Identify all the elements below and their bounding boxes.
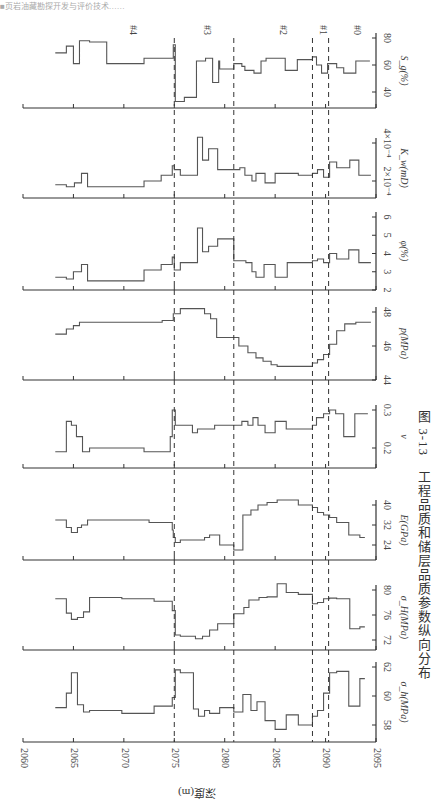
value-tick-label: 2 [382,288,393,293]
depth-tick-label: 2075 [170,748,181,768]
series-step-line [55,309,371,367]
value-tick-label: 0.2 [382,442,393,455]
panel-E: 243240E(GPa) [23,500,410,560]
depth-profile-chart: 406080S_g(%)2×10⁻⁴4×10⁻⁴K_w(mD)23456φ(%)… [0,0,447,812]
panel-K_w: 2×10⁻⁴4×10⁻⁴K_w(mD) [23,128,410,198]
panel-axis-label: σ_h(MPa) [398,681,410,723]
series-step-line [55,137,371,186]
depth-axis-label: 深度(m) [178,786,216,802]
value-tick-label: 4 [382,251,393,256]
series-step-line [55,500,365,550]
value-tick-label: 44 [382,375,393,385]
panel-axis-label: φ(%) [398,241,410,262]
series-step-line [55,41,370,102]
value-tick-label: 62 [382,662,393,672]
panel-axis-label: σ_H(MPa) [398,596,410,640]
value-tick-label: 5 [382,233,393,238]
panel-axis-label: ν [399,434,410,439]
panel-axis-label: K_w(mD) [398,147,410,188]
value-tick-label: 48 [382,307,393,317]
zone-label: #3 [202,25,213,35]
value-tick-label: 76 [382,610,393,620]
depth-tick-label: 2090 [321,748,332,768]
value-tick-label: 24 [382,540,393,550]
figure-caption: 图 3-13 工程品质和储层品质参数纵向分布 [414,410,433,680]
panel-sigma_H: 727680σ_H(MPa) [23,584,410,650]
panel-axis-label: p(MPa) [398,327,410,360]
panel-nu: 0.20.3ν [23,404,410,468]
panel-sigma_h: 586062σ_h(MPa) [23,662,410,742]
value-tick-label: 58 [382,720,393,730]
value-tick-label: 60 [382,691,393,701]
value-tick-label: 40 [382,87,393,97]
value-tick-label: 32 [382,520,393,530]
series-step-line [55,670,365,729]
depth-tick-label: 2080 [220,748,231,768]
value-tick-label: 0.3 [382,404,393,417]
series-step-line [55,228,371,281]
series-step-line [55,584,365,639]
value-tick-label: 46 [382,341,393,351]
panel-p: 444648p(MPa) [23,307,410,385]
value-tick-label: 3 [382,269,393,274]
value-tick-label: 60 [382,60,393,70]
value-tick-label: 80 [382,33,393,43]
depth-tick-label: 2060 [19,748,30,768]
depth-tick-label: 2085 [271,748,282,768]
panel-axis-label: E(GPa) [398,513,410,546]
depth-tick-label: 2065 [69,748,80,768]
panel-S_g: 406080S_g(%) [23,33,410,108]
value-tick-label: 80 [382,585,393,595]
zone-label: #0 [352,25,363,35]
zone-label: #2 [278,25,289,35]
value-tick-label: 72 [382,635,393,645]
value-tick-label: 40 [382,500,393,510]
value-tick-label: 2×10⁻⁴ [382,166,393,196]
value-tick-label: 6 [382,215,393,220]
depth-tick-label: 2070 [120,748,131,768]
panel-phi: 23456φ(%) [23,212,410,293]
zone-label: #1 [318,25,329,35]
zone-label: #4 [128,25,139,35]
depth-tick-label: 2095 [372,748,383,768]
panel-axis-label: S_g(%) [398,56,410,87]
series-step-line [55,410,368,452]
value-tick-label: 4×10⁻⁴ [382,128,393,158]
